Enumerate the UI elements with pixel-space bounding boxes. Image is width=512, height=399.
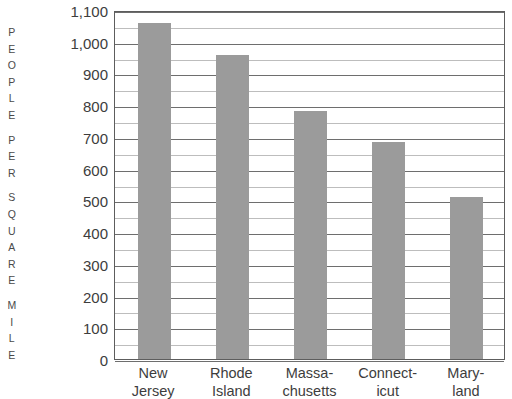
- y-axis-title-letter: E: [8, 107, 16, 124]
- x-axis-tick-label: NewJersey: [114, 364, 192, 399]
- y-axis-tick-label: 1,000: [40, 34, 108, 51]
- y-axis-tick-label: 0: [40, 352, 108, 369]
- y-axis-title-letter: E: [8, 148, 16, 165]
- gridline-major: [115, 361, 504, 362]
- y-axis-title-letter: L: [9, 330, 15, 347]
- bar: [372, 142, 405, 359]
- y-axis-title-letter: U: [8, 223, 16, 240]
- y-axis-tick-label: 300: [40, 256, 108, 273]
- x-axis-tick-label: RhodeIsland: [192, 364, 270, 399]
- y-axis-title-letter: P: [8, 132, 16, 149]
- y-axis-tick-label: 200: [40, 288, 108, 305]
- y-axis-tick-label: 400: [40, 225, 108, 242]
- y-axis-tick-label: 900: [40, 66, 108, 83]
- x-axis-tick-label-line: icut: [349, 382, 427, 399]
- x-axis-tick-label-line: Island: [192, 382, 270, 399]
- y-axis-title-letter: L: [9, 90, 15, 107]
- y-axis-tick-label: 800: [40, 98, 108, 115]
- x-axis-tick-label: Massa-chusetts: [270, 364, 348, 399]
- y-axis-tick-labels: 01002003004005006007008009001,0001,100: [40, 0, 108, 399]
- y-axis-title-letter: S: [8, 189, 16, 206]
- y-axis-tick-label: 500: [40, 193, 108, 210]
- y-axis-title-letter: P: [8, 24, 16, 41]
- x-axis-tick-label-line: Jersey: [114, 382, 192, 399]
- y-axis-tick-label: 600: [40, 161, 108, 178]
- y-axis-title-letter: P: [8, 74, 16, 91]
- x-axis-tick-labels: NewJerseyRhodeIslandMassa-chusettsConnec…: [114, 364, 505, 399]
- bar: [450, 197, 483, 359]
- bar: [294, 111, 327, 359]
- y-axis-tick-label: 100: [40, 320, 108, 337]
- y-axis-tick-label: 700: [40, 129, 108, 146]
- y-axis-tick-label: 1,100: [40, 3, 108, 20]
- x-axis-tick-label-line: Connect-: [358, 365, 417, 381]
- x-axis-tick-label-line: land: [427, 382, 505, 399]
- y-axis-title-letter: R: [8, 256, 16, 273]
- y-axis-title-letter: A: [8, 239, 16, 256]
- x-axis-tick-label-line: New: [139, 365, 168, 381]
- x-axis-tick-label: Connect-icut: [349, 364, 427, 399]
- y-axis-title: PEOPLEPERSQUAREMILE: [2, 24, 22, 363]
- bar: [216, 55, 249, 359]
- plot-area: [114, 11, 505, 360]
- x-axis-tick-label-line: Mary-: [447, 365, 484, 381]
- x-axis-tick-label-line: chusetts: [270, 382, 348, 399]
- bar-chart-figure: PEOPLEPERSQUAREMILE 01002003004005006007…: [0, 0, 512, 399]
- y-axis-title-letter: E: [8, 347, 16, 364]
- y-axis-title-letter: R: [8, 165, 16, 182]
- y-axis-title-letter: O: [8, 57, 17, 74]
- y-axis-title-letter: E: [8, 41, 16, 58]
- x-axis-tick-label-line: Massa-: [286, 365, 334, 381]
- x-axis-tick-label-line: Rhode: [210, 365, 253, 381]
- x-axis-tick-label: Mary-land: [427, 364, 505, 399]
- y-axis-title-letter: E: [8, 272, 16, 289]
- y-axis-title-letter: Q: [8, 206, 17, 223]
- bar: [138, 23, 171, 359]
- y-axis-title-letter: I: [10, 314, 13, 331]
- y-axis-title-letter: M: [7, 297, 16, 314]
- bars-layer: [115, 12, 504, 359]
